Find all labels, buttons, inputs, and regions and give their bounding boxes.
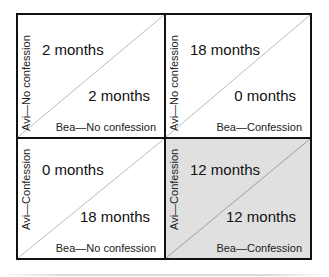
- bea-payoff: 12 months: [226, 208, 296, 225]
- horizontal-divider: [18, 137, 310, 139]
- avi-payoff: 0 months: [42, 161, 104, 178]
- avi-payoff: 18 months: [190, 41, 260, 58]
- avi-strategy-label: Avi—No confession: [168, 35, 180, 131]
- diagonal-divider: [18, 15, 164, 137]
- avi-strategy-label: Avi—No confession: [20, 35, 32, 131]
- avi-strategy-label: Avi—Confession: [20, 149, 32, 230]
- bea-strategy-label: Bea—Confession: [216, 242, 302, 254]
- avi-payoff: 12 months: [190, 161, 260, 178]
- diagonal-divider: [166, 139, 310, 258]
- bea-payoff: 18 months: [80, 208, 150, 225]
- payoff-matrix: Avi—No confession 2 months 2 months Bea—…: [16, 13, 312, 260]
- cell-avi-confession-bea-confession: Avi—Confession 12 months 12 months Bea—C…: [166, 139, 310, 258]
- bea-strategy-label: Bea—Confession: [216, 121, 302, 133]
- avi-payoff: 2 months: [42, 41, 104, 58]
- avi-strategy-label: Avi—Confession: [168, 149, 180, 230]
- page-rule: [0, 274, 329, 276]
- cell-avi-no-confession-bea-no-confession: Avi—No confession 2 months 2 months Bea—…: [18, 15, 164, 137]
- bea-payoff: 0 months: [234, 87, 296, 104]
- bea-strategy-label: Bea—No confession: [56, 121, 156, 133]
- cell-avi-no-confession-bea-confession: Avi—No confession 18 months 0 months Bea…: [166, 15, 310, 137]
- cell-avi-confession-bea-no-confession: Avi—Confession 0 months 18 months Bea—No…: [18, 139, 164, 258]
- bea-payoff: 2 months: [88, 87, 150, 104]
- bea-strategy-label: Bea—No confession: [56, 242, 156, 254]
- diagonal-divider: [18, 139, 164, 258]
- diagonal-divider: [166, 15, 310, 137]
